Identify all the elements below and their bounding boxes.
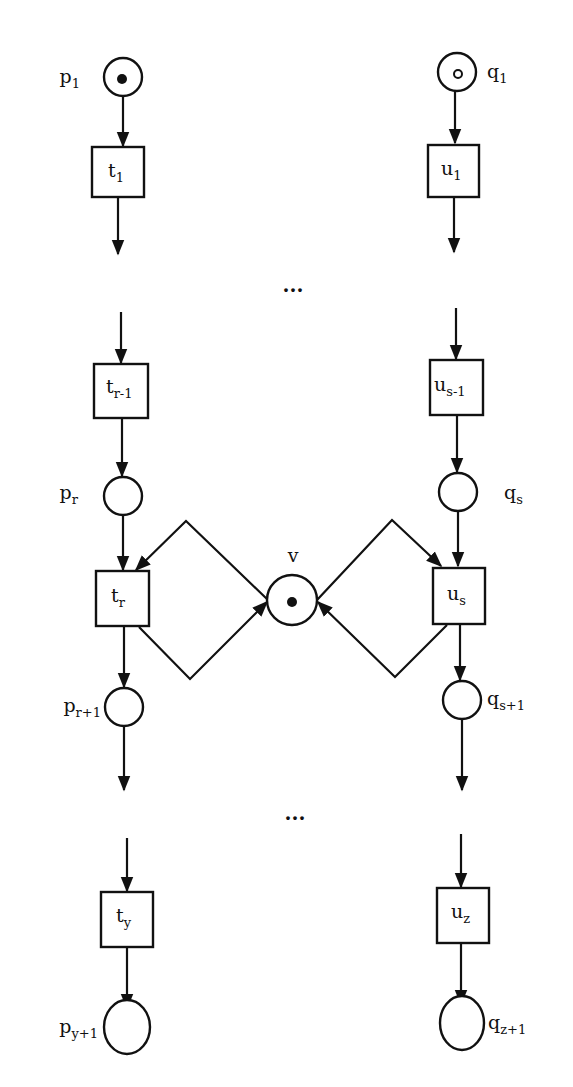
place-pr [104, 477, 142, 515]
arc-v-tr [136, 521, 268, 600]
arc-v-us [317, 520, 441, 600]
label-qz1: qz+1 [488, 1011, 526, 1037]
label-p1: p1 [60, 65, 80, 91]
arc-us-v [318, 602, 447, 677]
ellipsis-bottom: ... [285, 801, 306, 825]
place-p1 [104, 58, 142, 96]
label-qs: qs [504, 481, 523, 507]
place-circle [438, 53, 476, 91]
label-pr: pr [60, 481, 79, 507]
label-v: v [287, 544, 299, 566]
right-column-arcs [454, 91, 462, 1004]
label-qs1: qs+1 [487, 687, 525, 713]
label-q1: q1 [487, 60, 507, 86]
left-column-arcs [118, 96, 127, 1008]
label-pr1: pr+1 [63, 694, 101, 720]
arc-tr-v [139, 602, 267, 679]
place-qz1 [440, 996, 484, 1050]
place-v [267, 575, 317, 625]
place-py1 [104, 1000, 150, 1054]
token-icon [287, 597, 297, 607]
place-pr1 [105, 688, 143, 726]
place-q1 [438, 53, 476, 91]
petri-net-diagram: ... ... p1 q1 t1 u1 tr-1 us-1 pr qs tr u… [0, 0, 573, 1087]
label-py1: py+1 [59, 1015, 98, 1041]
place-qs [439, 473, 477, 511]
token-icon [117, 74, 127, 84]
ellipsis-top: ... [283, 273, 304, 297]
place-qs1 [443, 681, 481, 719]
